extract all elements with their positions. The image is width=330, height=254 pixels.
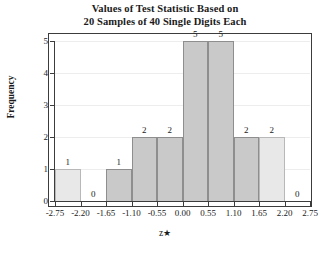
histogram-bar bbox=[259, 137, 285, 201]
plot-area: 1012255220 bbox=[55, 41, 310, 201]
bar-value-label: 5 bbox=[208, 30, 234, 39]
histogram-bin: 1 bbox=[55, 41, 81, 201]
x-tick-mark bbox=[208, 202, 209, 206]
bar-value-label: 0 bbox=[285, 190, 311, 199]
x-tick-mark bbox=[285, 202, 286, 206]
y-tick-mark bbox=[50, 169, 54, 170]
histogram-bin: 0 bbox=[285, 41, 311, 201]
histogram-figure: Values of Test Statistic Based on 20 Sam… bbox=[0, 0, 330, 254]
y-tick-mark bbox=[50, 73, 54, 74]
bar-value-label: 0 bbox=[81, 190, 107, 199]
histogram-bar bbox=[234, 137, 260, 201]
histogram-bin: 2 bbox=[259, 41, 285, 201]
histogram-bar bbox=[55, 169, 81, 201]
x-tick-mark bbox=[234, 202, 235, 206]
histogram-bin: 1 bbox=[106, 41, 132, 201]
x-axis-title: z★ bbox=[0, 228, 330, 239]
x-tick-mark bbox=[106, 202, 107, 206]
x-tick-label: 2.75 bbox=[293, 208, 327, 218]
chart-title-line-2: 20 Samples of 40 Single Digits Each bbox=[0, 15, 330, 28]
bar-value-label: 5 bbox=[183, 30, 209, 39]
x-tick-mark bbox=[259, 202, 260, 206]
chart-title: Values of Test Statistic Based on 20 Sam… bbox=[0, 2, 330, 28]
histogram-bin: 2 bbox=[234, 41, 260, 201]
y-tick-mark bbox=[50, 41, 54, 42]
bar-value-label: 2 bbox=[234, 126, 260, 135]
x-tick-mark bbox=[310, 202, 311, 206]
y-tick-mark bbox=[50, 137, 54, 138]
histogram-bar bbox=[208, 41, 234, 201]
y-tick-label: 1 bbox=[30, 165, 48, 174]
histogram-bin: 0 bbox=[81, 41, 107, 201]
y-axis-title: Frequency bbox=[6, 67, 16, 127]
y-tick-label: 2 bbox=[30, 133, 48, 142]
y-tick-label: 3 bbox=[30, 101, 48, 110]
bar-series: 1012255220 bbox=[55, 41, 310, 201]
chart-title-line-1: Values of Test Statistic Based on bbox=[0, 2, 330, 15]
bar-value-label: 1 bbox=[55, 158, 81, 167]
histogram-bin: 5 bbox=[183, 41, 209, 201]
histogram-bar bbox=[183, 41, 209, 201]
bar-value-label: 2 bbox=[157, 126, 183, 135]
y-tick-label: 0 bbox=[30, 197, 48, 206]
histogram-bin: 5 bbox=[208, 41, 234, 201]
y-tick-mark bbox=[50, 105, 54, 106]
histogram-bin: 2 bbox=[132, 41, 158, 201]
x-tick-mark bbox=[157, 202, 158, 206]
y-tick-label: 4 bbox=[30, 69, 48, 78]
histogram-bin: 2 bbox=[157, 41, 183, 201]
histogram-bar bbox=[157, 137, 183, 201]
histogram-bar bbox=[132, 137, 158, 201]
histogram-bar bbox=[106, 169, 132, 201]
y-tick-label: 5 bbox=[30, 37, 48, 46]
x-tick-mark bbox=[183, 202, 184, 206]
x-tick-mark bbox=[132, 202, 133, 206]
bar-value-label: 2 bbox=[259, 126, 285, 135]
x-tick-mark bbox=[55, 202, 56, 206]
bar-value-label: 1 bbox=[106, 158, 132, 167]
x-tick-mark bbox=[81, 202, 82, 206]
bar-value-label: 2 bbox=[132, 126, 158, 135]
star-icon: ★ bbox=[163, 228, 171, 238]
